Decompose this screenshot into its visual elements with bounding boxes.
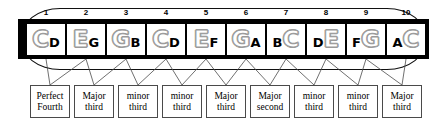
interval-label-line2: third <box>217 102 235 113</box>
interval-box-1[interactable]: PerfectFourth <box>30 85 70 118</box>
blow-note: C <box>152 28 169 51</box>
interval-label-line1: minor <box>303 91 326 102</box>
holes-row: CDEGGBCDEFGABCDEFGAC <box>18 19 429 59</box>
hole-number-3: 3 <box>107 7 145 18</box>
draw-note: D <box>49 36 60 49</box>
hole-1[interactable]: CD <box>27 24 65 55</box>
hole-notes: EG <box>73 28 99 51</box>
interval-box-4[interactable]: minorthird <box>162 85 202 118</box>
draw-note: A <box>250 36 260 49</box>
interval-box-6[interactable]: Majorsecond <box>250 85 290 118</box>
hole-number-9: 9 <box>347 7 385 18</box>
hole-notes: BC <box>273 28 300 51</box>
blow-note: C <box>32 28 49 51</box>
hole-8[interactable]: DE <box>307 24 345 55</box>
hole-numbers-row: 12345678910 <box>18 8 429 19</box>
blow-note: C <box>283 28 300 51</box>
interval-label-line1: minor <box>127 91 150 102</box>
interval-labels-row: PerfectFourthMajorthirdminorthirdminorth… <box>0 85 447 121</box>
interval-box-8[interactable]: minorthird <box>338 85 378 118</box>
blow-note: G <box>112 28 131 51</box>
draw-note: B <box>130 36 140 49</box>
interval-label-line1: Perfect <box>37 91 64 102</box>
blow-note: E <box>324 28 340 51</box>
hole-9[interactable]: FG <box>347 24 385 55</box>
hole-number-2: 2 <box>67 7 105 18</box>
hole-6[interactable]: GA <box>227 24 265 55</box>
interval-label-line1: Major <box>258 91 281 102</box>
hole-10[interactable]: AC <box>387 24 425 55</box>
interval-label-line1: Major <box>82 91 105 102</box>
interval-box-2[interactable]: Majorthird <box>74 85 114 118</box>
harmonica-diagram: 12345678910 CDEGGBCDEFGABCDEFGAC Perfect… <box>0 0 447 123</box>
hole-notes: EF <box>194 28 219 51</box>
hole-notes: DE <box>313 28 340 51</box>
blow-note: C <box>403 28 420 51</box>
hole-notes: FG <box>352 28 380 51</box>
interval-label-line1: Major <box>390 91 413 102</box>
interval-label-line2: third <box>85 102 103 113</box>
hole-number-1: 1 <box>27 7 65 18</box>
draw-note: F <box>209 36 218 49</box>
interval-box-5[interactable]: Majorthird <box>206 85 246 118</box>
hole-notes: CD <box>152 28 180 51</box>
blow-note: G <box>361 28 380 51</box>
harmonica-body: 12345678910 CDEGGBCDEFGABCDEFGAC <box>0 8 447 70</box>
interval-label-line1: minor <box>347 91 370 102</box>
hole-number-7: 7 <box>267 7 305 18</box>
hole-number-10: 10 <box>387 7 425 18</box>
interval-box-3[interactable]: minorthird <box>118 85 158 118</box>
draw-note: D <box>169 36 180 49</box>
hole-notes: GB <box>112 28 141 51</box>
interval-label-line2: Fourth <box>37 102 62 113</box>
hole-7[interactable]: BC <box>267 24 305 55</box>
draw-note: G <box>89 36 100 49</box>
interval-label-line1: minor <box>171 91 194 102</box>
hole-4[interactable]: CD <box>147 24 185 55</box>
draw-note: D <box>313 36 324 49</box>
interval-label-line2: third <box>129 102 147 113</box>
draw-note: F <box>352 36 361 49</box>
hole-number-6: 6 <box>227 7 265 18</box>
blow-note: E <box>73 28 89 51</box>
interval-label-line2: third <box>305 102 323 113</box>
interval-box-7[interactable]: minorthird <box>294 85 334 118</box>
hole-notes: CD <box>32 28 60 51</box>
hole-number-4: 4 <box>147 7 185 18</box>
draw-note: B <box>273 36 283 49</box>
hole-notes: GA <box>232 28 261 51</box>
interval-box-9[interactable]: Majorthird <box>382 85 422 118</box>
hole-2[interactable]: EG <box>67 24 105 55</box>
interval-label-line1: Major <box>214 91 237 102</box>
blow-note: E <box>194 28 210 51</box>
interval-label-line2: third <box>393 102 411 113</box>
hole-notes: AC <box>393 28 420 51</box>
hole-3[interactable]: GB <box>107 24 145 55</box>
blow-note: G <box>232 28 251 51</box>
hole-number-8: 8 <box>307 7 345 18</box>
hole-5[interactable]: EF <box>187 24 225 55</box>
interval-label-line2: third <box>173 102 191 113</box>
interval-label-line2: second <box>257 102 283 113</box>
interval-label-line2: third <box>349 102 367 113</box>
draw-note: A <box>393 36 403 49</box>
hole-number-5: 5 <box>187 7 225 18</box>
